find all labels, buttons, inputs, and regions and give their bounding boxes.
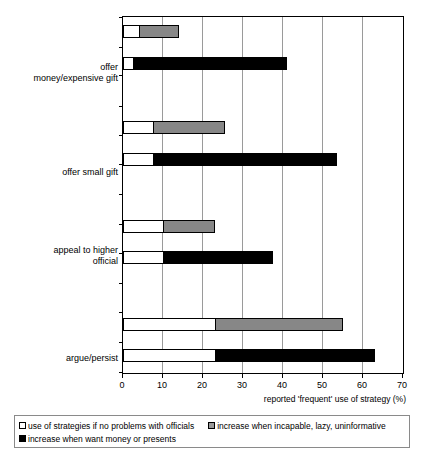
y-tick bbox=[119, 194, 123, 195]
bar-offer-small-gift-money bbox=[123, 153, 338, 166]
y-tick bbox=[119, 17, 123, 18]
chart-legend: use of strategies if no problems with of… bbox=[14, 415, 410, 448]
legend-item-money: increase when want money or presents bbox=[19, 434, 176, 444]
bar-segment-base bbox=[123, 153, 154, 166]
category-label-line1: argue/persist bbox=[6, 353, 118, 364]
category-label-argue-persist: argue/persist bbox=[6, 353, 118, 364]
bar-segment-incapable bbox=[153, 121, 225, 134]
legend-label-no-problems: use of strategies if no problems with of… bbox=[28, 421, 194, 431]
x-tick-60 bbox=[362, 373, 363, 378]
category-label-line1: offer small gift bbox=[6, 167, 118, 178]
x-tick-label-10: 10 bbox=[147, 380, 177, 390]
category-label-offer-money-expensive-gift: offer money/expensive gift bbox=[6, 62, 118, 84]
bar-chart-figure: offer money/expensive gift offer small g… bbox=[0, 0, 425, 460]
bar-argue-persist-incapable bbox=[123, 318, 344, 331]
bar-segment-base bbox=[123, 220, 164, 233]
category-label-line2: official bbox=[6, 256, 118, 267]
bar-appeal-to-higher-official-incapable bbox=[123, 220, 216, 233]
y-tick bbox=[119, 75, 123, 76]
bar-offer-small-gift-incapable bbox=[123, 121, 226, 134]
gridline-60 bbox=[362, 17, 363, 373]
legend-row-2: increase when want money or presents bbox=[19, 432, 405, 445]
category-label-offer-small-gift: offer small gift bbox=[6, 167, 118, 178]
bar-argue-persist-money bbox=[123, 349, 376, 362]
x-tick-20 bbox=[202, 373, 203, 378]
bar-offer-money-expensive-gift-money bbox=[123, 57, 288, 70]
x-tick-label-0: 0 bbox=[107, 380, 137, 390]
bar-segment-money bbox=[153, 153, 337, 166]
bar-segment-base bbox=[123, 349, 216, 362]
category-label-line1: offer bbox=[6, 62, 118, 73]
bar-segment-incapable bbox=[139, 25, 179, 38]
y-tick bbox=[119, 106, 123, 107]
category-label-line1: appeal to higher bbox=[6, 245, 118, 256]
x-tick-10 bbox=[162, 373, 163, 378]
bar-segment-money bbox=[215, 349, 375, 362]
plot-area bbox=[122, 16, 404, 374]
x-tick-label-30: 30 bbox=[227, 380, 257, 390]
bar-segment-base bbox=[123, 251, 164, 264]
x-tick-50 bbox=[322, 373, 323, 378]
legend-label-incapable: increase when incapable, lazy, uninforma… bbox=[217, 421, 386, 431]
y-tick bbox=[119, 342, 123, 343]
x-tick-label-50: 50 bbox=[307, 380, 337, 390]
bar-segment-base bbox=[123, 25, 140, 38]
bar-segment-money bbox=[163, 251, 273, 264]
y-tick bbox=[119, 47, 123, 48]
legend-swatch-gray-icon bbox=[208, 422, 215, 429]
legend-row-1: use of strategies if no problems with of… bbox=[19, 419, 405, 432]
legend-item-incapable: increase when incapable, lazy, uninforma… bbox=[208, 421, 386, 431]
category-axis-labels: offer money/expensive gift offer small g… bbox=[6, 16, 118, 372]
x-tick-40 bbox=[282, 373, 283, 378]
bar-appeal-to-higher-official-money bbox=[123, 251, 274, 264]
x-tick-label-40: 40 bbox=[267, 380, 297, 390]
bar-segment-money bbox=[133, 57, 287, 70]
legend-swatch-white-icon bbox=[19, 422, 26, 429]
x-tick-label-60: 60 bbox=[347, 380, 377, 390]
x-tick-label-70: 70 bbox=[387, 380, 417, 390]
legend-item-no-problems: use of strategies if no problems with of… bbox=[19, 421, 194, 431]
category-label-appeal-to-higher-official: appeal to higher official bbox=[6, 245, 118, 267]
x-axis-title: reported 'frequent' use of strategy (%) bbox=[264, 394, 406, 404]
x-tick-0 bbox=[122, 373, 123, 378]
x-tick-70 bbox=[402, 373, 403, 378]
y-tick bbox=[119, 135, 123, 136]
legend-swatch-black-icon bbox=[19, 435, 26, 442]
bar-segment-base bbox=[123, 318, 216, 331]
x-tick-label-20: 20 bbox=[187, 380, 217, 390]
legend-label-money: increase when want money or presents bbox=[28, 434, 176, 444]
category-label-line2: money/expensive gift bbox=[6, 73, 118, 84]
bar-segment-base bbox=[123, 121, 154, 134]
y-tick bbox=[119, 312, 123, 313]
y-tick bbox=[119, 283, 123, 284]
bar-offer-money-expensive-gift-incapable bbox=[123, 25, 180, 38]
x-tick-30 bbox=[242, 373, 243, 378]
bar-segment-incapable bbox=[215, 318, 343, 331]
bar-segment-incapable bbox=[163, 220, 215, 233]
x-axis-line bbox=[122, 373, 403, 374]
